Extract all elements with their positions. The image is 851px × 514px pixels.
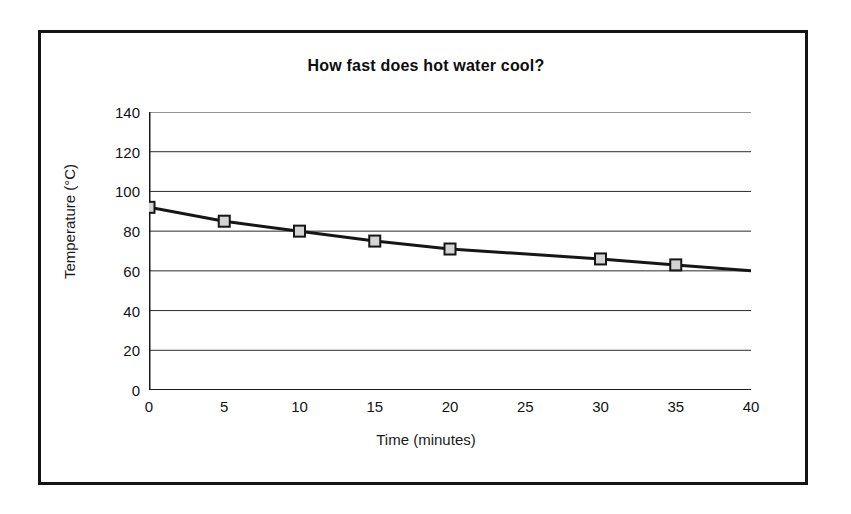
data-point-marker xyxy=(149,202,155,213)
y-tick-label: 80 xyxy=(123,223,140,240)
x-tick-label: 25 xyxy=(517,398,534,415)
x-tick-label: 0 xyxy=(145,398,153,415)
plot-area: 0204060801001201400510152025303540 xyxy=(149,112,751,390)
y-tick-label: 20 xyxy=(123,342,140,359)
y-axis-title: Temperature (°C) xyxy=(61,122,78,322)
x-tick-label: 15 xyxy=(366,398,383,415)
data-point-marker xyxy=(445,244,456,255)
x-tick-label: 10 xyxy=(291,398,308,415)
y-tick-label: 40 xyxy=(123,302,140,319)
screenshot-root: How fast does hot water cool? Temperatur… xyxy=(0,0,851,514)
y-tick-label: 140 xyxy=(115,104,140,121)
y-tick-label: 60 xyxy=(123,262,140,279)
x-tick-label: 5 xyxy=(220,398,228,415)
x-tick-label: 40 xyxy=(743,398,760,415)
x-tick-label: 20 xyxy=(442,398,459,415)
x-tick-label: 35 xyxy=(667,398,684,415)
data-point-marker xyxy=(369,236,380,247)
y-tick-label: 0 xyxy=(132,382,140,399)
line-chart-canvas xyxy=(149,112,751,390)
y-tick-label: 120 xyxy=(115,143,140,160)
data-point-marker xyxy=(219,216,230,227)
x-tick-label: 30 xyxy=(592,398,609,415)
data-point-marker xyxy=(595,253,606,264)
data-point-marker xyxy=(294,226,305,237)
data-line xyxy=(149,207,751,271)
data-point-marker xyxy=(670,259,681,270)
x-axis-title: Time (minutes) xyxy=(41,431,811,448)
chart-title: How fast does hot water cool? xyxy=(41,57,811,75)
chart-figure-frame: How fast does hot water cool? Temperatur… xyxy=(38,30,808,485)
y-tick-label: 100 xyxy=(115,183,140,200)
